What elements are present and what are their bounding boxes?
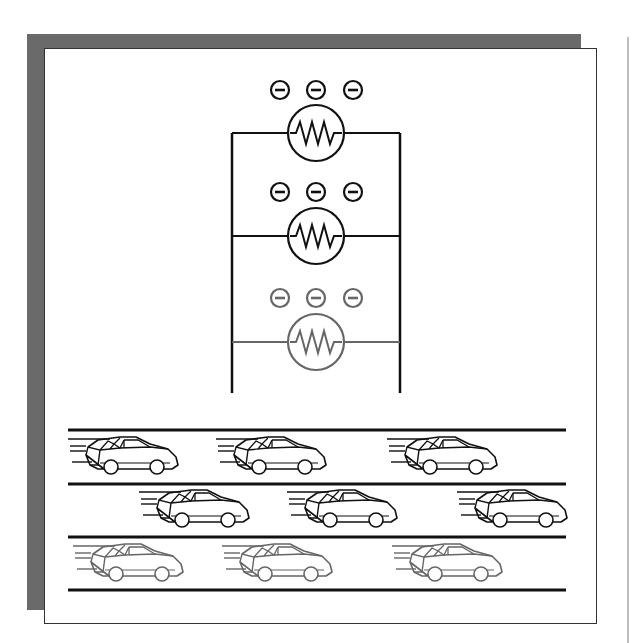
- car-icon: [457, 490, 567, 527]
- car-icon: [222, 544, 332, 581]
- traffic: [68, 430, 567, 590]
- car-icon: [73, 544, 183, 581]
- car-icon: [387, 437, 497, 474]
- diagram-canvas: [0, 0, 632, 643]
- branch-2: [232, 183, 400, 264]
- car-icon: [392, 544, 502, 581]
- car-icon: [68, 437, 178, 474]
- electrons: [271, 81, 362, 99]
- circuit: [232, 81, 400, 393]
- branch-3: [232, 289, 400, 370]
- lane-1-cars: [68, 437, 497, 474]
- car-icon: [139, 490, 249, 527]
- branch-1: [232, 81, 400, 161]
- electrons: [271, 183, 362, 201]
- electrons: [271, 289, 362, 307]
- lane-2-cars: [139, 490, 567, 527]
- lane-3-cars: [73, 544, 502, 581]
- car-icon: [287, 490, 397, 527]
- car-icon: [216, 437, 326, 474]
